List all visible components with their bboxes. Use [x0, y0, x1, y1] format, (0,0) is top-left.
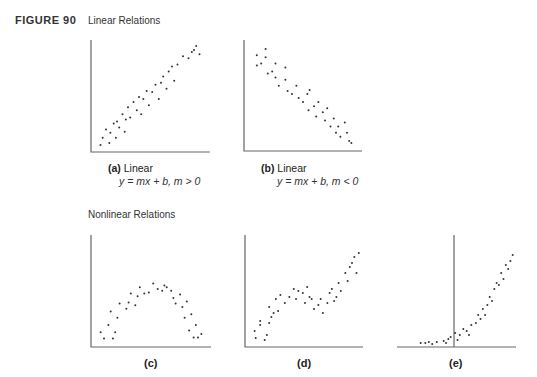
- data-point: [462, 328, 464, 330]
- data-point: [177, 63, 179, 65]
- data-point: [265, 56, 267, 58]
- data-point: [454, 332, 456, 334]
- data-point: [160, 82, 162, 84]
- data-point: [166, 286, 168, 288]
- data-point: [118, 127, 120, 129]
- data-point: [108, 142, 110, 144]
- data-point: [324, 120, 326, 122]
- data-point: [493, 288, 495, 290]
- data-point: [447, 338, 449, 340]
- data-point: [116, 317, 118, 319]
- data-point: [338, 282, 340, 284]
- data-point: [113, 123, 115, 125]
- data-point: [173, 80, 175, 82]
- data-point: [268, 306, 270, 308]
- caption-e: (e): [449, 357, 462, 369]
- data-point: [152, 283, 154, 285]
- data-point: [431, 343, 433, 345]
- caption-a-text: Linear: [124, 162, 153, 174]
- data-point: [125, 118, 127, 120]
- data-point: [109, 132, 111, 134]
- data-point: [273, 312, 275, 314]
- data-point: [335, 296, 337, 298]
- data-point: [436, 341, 438, 343]
- data-point: [322, 312, 324, 314]
- data-point: [125, 308, 127, 310]
- data-point: [349, 266, 351, 268]
- data-point: [346, 132, 348, 134]
- data-point: [457, 339, 459, 341]
- data-point: [331, 288, 333, 290]
- data-point: [171, 65, 173, 67]
- data-point: [480, 318, 482, 320]
- data-point: [445, 342, 447, 344]
- data-point: [313, 105, 315, 107]
- data-point: [191, 51, 193, 53]
- data-point: [509, 260, 511, 262]
- data-point: [302, 292, 304, 294]
- data-point: [311, 298, 313, 300]
- data-point: [344, 272, 346, 274]
- data-point: [428, 341, 430, 343]
- data-point: [254, 330, 256, 332]
- data-point: [288, 296, 290, 298]
- data-point: [326, 302, 328, 304]
- data-point: [489, 296, 491, 298]
- data-point: [133, 101, 135, 103]
- data-point: [170, 290, 172, 292]
- data-point: [500, 272, 502, 274]
- data-point: [505, 264, 507, 266]
- data-point: [146, 90, 148, 92]
- data-point: [335, 132, 337, 134]
- caption-b-tag: (b): [261, 162, 274, 174]
- data-point: [190, 313, 192, 315]
- data-point: [116, 121, 118, 123]
- data-point: [507, 268, 509, 270]
- data-point: [284, 79, 286, 81]
- data-point: [102, 137, 104, 139]
- data-point: [112, 338, 114, 340]
- data-point: [295, 298, 297, 300]
- data-point: [143, 293, 145, 295]
- data-point: [348, 140, 350, 142]
- data-point: [148, 292, 150, 294]
- data-point: [181, 306, 183, 308]
- data-point: [315, 115, 317, 117]
- data-point: [353, 256, 355, 258]
- data-point: [195, 324, 197, 326]
- data-point: [268, 322, 270, 324]
- data-point: [340, 290, 342, 292]
- data-point: [317, 304, 319, 306]
- data-point: [475, 322, 477, 324]
- data-point: [309, 89, 311, 91]
- caption-c: (c): [144, 357, 157, 369]
- data-point: [188, 329, 190, 331]
- data-point: [256, 54, 258, 56]
- data-point: [157, 288, 159, 290]
- caption-a-tag: (a): [108, 162, 121, 174]
- data-point: [322, 111, 324, 113]
- data-point: [344, 122, 346, 124]
- data-point: [330, 126, 332, 128]
- data-point: [270, 316, 272, 318]
- data-point: [295, 85, 297, 87]
- data-point: [308, 109, 310, 111]
- data-point: [271, 71, 273, 73]
- data-point: [100, 331, 102, 333]
- data-point: [129, 116, 131, 118]
- data-point: [486, 304, 488, 306]
- data-point: [151, 91, 153, 93]
- data-point: [172, 297, 174, 299]
- data-point: [424, 342, 426, 344]
- data-point: [166, 88, 168, 90]
- data-point: [443, 340, 445, 342]
- data-point: [477, 314, 479, 316]
- data-point: [130, 293, 132, 295]
- data-point: [197, 337, 199, 339]
- data-point: [195, 45, 197, 47]
- data-point: [193, 49, 195, 51]
- data-point: [259, 324, 261, 326]
- data-point: [256, 64, 258, 66]
- data-point: [136, 109, 138, 111]
- data-point: [119, 302, 121, 304]
